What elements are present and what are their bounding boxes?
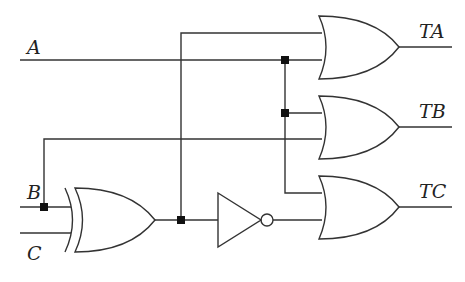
or-gate-tb bbox=[319, 96, 399, 159]
input-label-b: B bbox=[27, 183, 41, 202]
not-gate-bubble bbox=[261, 214, 273, 226]
input-label-a: A bbox=[27, 38, 41, 57]
not-gate bbox=[218, 193, 261, 247]
output-label-ta: TA bbox=[419, 22, 444, 41]
logic-circuit-diagram: A B C TA TB TC bbox=[0, 0, 465, 282]
output-label-tc: TC bbox=[419, 182, 446, 201]
wire-b-to-tb bbox=[44, 139, 322, 207]
or-gate-tc bbox=[319, 176, 399, 239]
input-label-c: C bbox=[27, 244, 42, 263]
junction-a bbox=[281, 56, 289, 64]
circuit-drawing bbox=[0, 0, 465, 282]
junction-a-tb bbox=[281, 109, 289, 117]
or-gate-ta bbox=[319, 16, 399, 79]
xor-gate-back-curve bbox=[65, 188, 73, 252]
wire-a-branch bbox=[285, 60, 322, 193]
output-label-tb: TB bbox=[419, 102, 446, 121]
xor-gate bbox=[75, 188, 155, 252]
junction-b bbox=[40, 203, 48, 211]
junction-xor-out bbox=[177, 216, 185, 224]
wire-xor-to-ta bbox=[181, 33, 322, 220]
